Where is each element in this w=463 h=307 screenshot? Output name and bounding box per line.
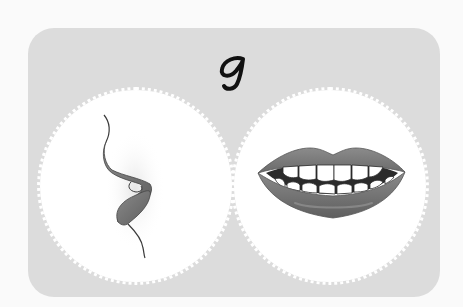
scalloped-edge — [231, 87, 429, 285]
letter-label: g — [0, 0, 1, 1]
letter-g-glyph — [216, 52, 250, 92]
side-view-circle — [40, 90, 232, 282]
front-view-circle — [234, 90, 426, 282]
scalloped-edge — [37, 87, 235, 285]
phonics-card: g — [0, 0, 463, 307]
